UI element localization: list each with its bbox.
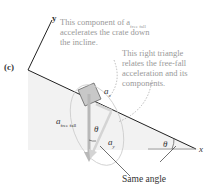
- a-x-label: ax: [104, 86, 111, 101]
- a-free-fall-label: afree fall: [56, 116, 76, 131]
- note-triangle-line1: This right triangle: [122, 48, 183, 58]
- note-triangle-line4: components.: [122, 78, 165, 88]
- panel-label: (c): [4, 62, 14, 72]
- same-angle-leader-1: [100, 146, 130, 176]
- callout-component: [110, 60, 117, 96]
- y-axis: [28, 20, 52, 70]
- x-axis-label: x: [199, 144, 203, 154]
- theta-vectors: θ: [94, 124, 98, 134]
- note-component-line2: accelerates the crate down: [60, 27, 149, 37]
- y-axis-label: y: [52, 13, 57, 23]
- theta-incline: θ: [163, 139, 167, 149]
- note-triangle-line2: relates the free-fall: [122, 58, 186, 68]
- same-angle-label: Same angle: [122, 174, 166, 184]
- note-triangle-line3: acceleration and its: [122, 68, 188, 78]
- a-y-label: ay: [108, 137, 115, 152]
- a-y-arrowhead: [89, 149, 97, 159]
- note-component-line3: the incline.: [60, 37, 98, 47]
